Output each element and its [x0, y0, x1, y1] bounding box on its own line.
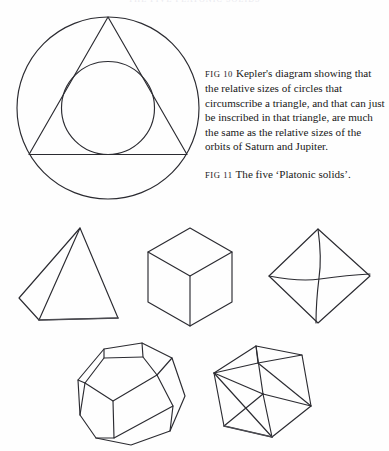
tetrahedron-inner-edge	[39, 228, 80, 320]
dodecahedron-edge-e	[96, 401, 114, 438]
octahedron-figure	[269, 229, 370, 323]
dodecahedron-edge-h	[80, 383, 85, 415]
caption-fig-11-text: The five ‘Platonic solids’.	[236, 168, 351, 180]
icosahedron-spoke-5	[263, 394, 272, 437]
dodecahedron-outline	[78, 343, 185, 445]
inner-circle	[62, 62, 155, 155]
octahedron-inner-vertical-edge	[316, 229, 320, 323]
cube-top-inner-edges	[148, 252, 232, 276]
caption-fig-10-label: FIG 10	[205, 69, 236, 79]
running-head: THE FIVE PLATONIC SOLIDS	[0, 0, 389, 4]
icosahedron-figure	[214, 346, 311, 437]
figure-10-kepler-diagram	[8, 8, 208, 208]
tetrahedron-figure	[19, 228, 118, 320]
outer-circle	[17, 17, 199, 199]
cube-figure	[148, 228, 232, 326]
caption-fig-11-label: FIG 11	[205, 170, 236, 180]
book-page: THE FIVE PLATONIC SOLIDS FIG 10Kepler's …	[0, 0, 389, 451]
dodecahedron-edge-f	[157, 375, 173, 431]
dodecahedron-edge-d	[85, 375, 157, 401]
icosahedron-diagonal-left	[214, 373, 272, 437]
tetrahedron-base-edge	[39, 318, 118, 320]
caption-fig-11: FIG 11The five ‘Platonic solids’.	[205, 167, 385, 182]
caption-fig-10-text: Kepler's diagram showing that the relati…	[205, 67, 385, 152]
tetrahedron-outline	[19, 228, 118, 320]
kepler-diagram-svg	[8, 8, 208, 208]
inscribed-triangle	[29, 17, 187, 155]
icosahedron-spoke-2	[214, 373, 263, 394]
caption-fig-10: FIG 10Kepler's diagram showing that the …	[205, 66, 385, 154]
platonic-solids-svg	[0, 210, 389, 451]
dodecahedron-figure	[78, 343, 185, 445]
caption-column: FIG 10Kepler's diagram showing that the …	[205, 66, 385, 182]
dodecahedron-edge-c	[104, 357, 143, 358]
figure-11-platonic-solids	[0, 210, 389, 451]
dodecahedron-edge-b	[142, 343, 172, 375]
icosahedron-base-edge	[224, 426, 272, 437]
